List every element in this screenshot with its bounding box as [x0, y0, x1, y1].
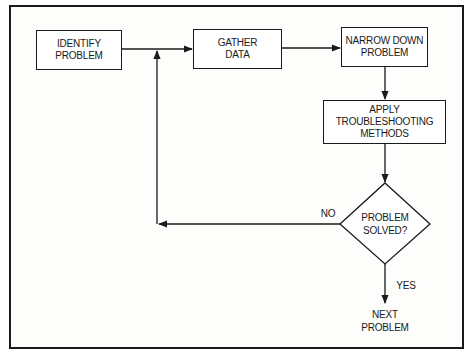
node-problem-solved-decision: PROBLEM SOLVED? [345, 211, 425, 237]
node-identify-line1: IDENTIFY [55, 38, 103, 50]
node-apply-line1: APPLY [336, 104, 434, 116]
edge-label-no: NO [318, 208, 338, 220]
edge-label-no-text: NO [318, 208, 338, 220]
node-apply-troubleshooting-methods: APPLY TROUBLESHOOTING METHODS [323, 100, 446, 144]
node-narrow-line1: NARROW DOWN [346, 35, 424, 47]
node-identify-line2: PROBLEM [55, 50, 103, 62]
node-next-line1: NEXT [350, 308, 420, 321]
node-apply-line2: TROUBLESHOOTING [336, 116, 434, 128]
node-decision-line2: SOLVED? [345, 224, 425, 237]
node-gather-data: GATHER DATA [193, 29, 282, 69]
edge-label-yes: YES [392, 280, 420, 292]
node-next-problem: NEXT PROBLEM [350, 308, 420, 334]
node-identify-problem: IDENTIFY PROBLEM [36, 30, 122, 70]
node-next-line2: PROBLEM [350, 321, 420, 334]
edge-label-yes-text: YES [392, 280, 420, 292]
node-narrow-line2: PROBLEM [346, 47, 424, 59]
node-narrow-down-problem: NARROW DOWN PROBLEM [341, 27, 428, 67]
node-gather-line1: GATHER [218, 37, 258, 49]
node-decision-line1: PROBLEM [345, 211, 425, 224]
node-gather-line2: DATA [218, 49, 258, 61]
node-apply-line3: METHODS [336, 128, 434, 140]
